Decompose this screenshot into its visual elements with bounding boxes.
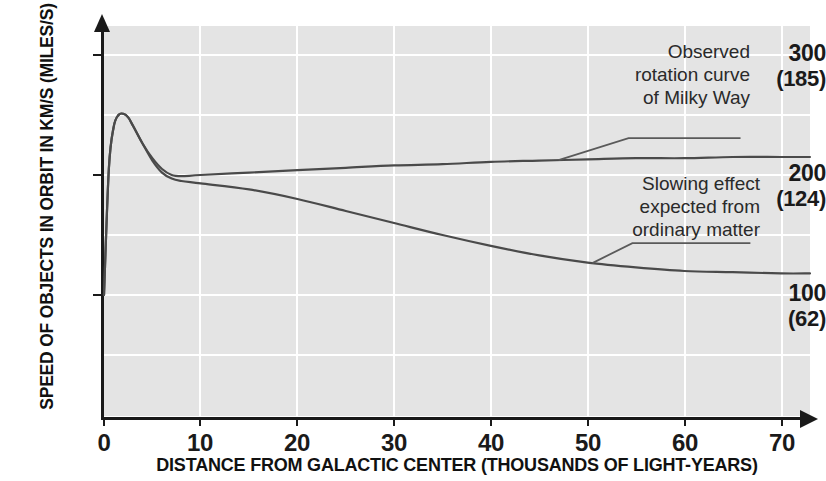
annotation-ordinary-matter: Slowing effect expected from ordinary ma… bbox=[430, 172, 760, 241]
y-tick-label-300-primary: 300 bbox=[789, 40, 826, 66]
x-tick-20 bbox=[296, 417, 298, 426]
x-tick-70 bbox=[781, 417, 783, 426]
x-tick-40 bbox=[490, 417, 492, 426]
annotation-observed-line-3: of Milky Way bbox=[430, 86, 750, 109]
x-tick-10 bbox=[199, 417, 201, 426]
gridline-y-100 bbox=[104, 294, 810, 296]
x-tick-0 bbox=[103, 417, 105, 426]
x-tick-label-30: 30 bbox=[364, 429, 424, 457]
annotation-observed-rotation-curve: Observed rotation curve of Milky Way bbox=[430, 40, 750, 109]
y-axis-arrow-icon bbox=[94, 14, 110, 32]
y-tick-100 bbox=[93, 294, 104, 296]
chart-figure: 300 (185) 200 (124) 100 (62) 0 10 20 30 … bbox=[0, 0, 826, 481]
y-tick-200 bbox=[93, 174, 104, 176]
x-tick-label-40: 40 bbox=[461, 429, 521, 457]
y-tick-label-100: 100 (62) bbox=[726, 281, 826, 331]
x-tick-60 bbox=[684, 417, 686, 426]
x-axis-title: DISTANCE FROM GALACTIC CENTER (THOUSANDS… bbox=[104, 455, 810, 476]
annotation-ordinary-line-3: ordinary matter bbox=[430, 218, 760, 241]
x-tick-label-60: 60 bbox=[655, 429, 715, 457]
y-axis-title: SPEED OF OBJECTS IN ORBIT IN KM/S (MILES… bbox=[37, 0, 58, 417]
x-tick-label-10: 10 bbox=[170, 429, 230, 457]
annotation-observed-line-2: rotation curve bbox=[430, 63, 750, 86]
x-tick-label-20: 20 bbox=[267, 429, 327, 457]
x-tick-label-50: 50 bbox=[558, 429, 618, 457]
gridline-x-20 bbox=[296, 26, 298, 416]
annotation-ordinary-line-1: Slowing effect bbox=[430, 172, 760, 195]
y-tick-300 bbox=[93, 54, 104, 56]
annotation-observed-line-1: Observed bbox=[430, 40, 750, 63]
y-axis-line bbox=[101, 30, 104, 420]
y-tick-label-100-secondary: (62) bbox=[726, 306, 826, 331]
x-axis-arrow-icon bbox=[800, 410, 818, 428]
x-tick-30 bbox=[393, 417, 395, 426]
gridline-y-50 bbox=[104, 354, 810, 356]
gridline-y-250 bbox=[104, 114, 810, 116]
gridline-x-10 bbox=[199, 26, 201, 416]
x-tick-label-70: 70 bbox=[752, 429, 812, 457]
x-tick-50 bbox=[587, 417, 589, 426]
y-tick-label-200-primary: 200 bbox=[789, 160, 826, 186]
x-axis-line bbox=[101, 417, 804, 420]
gridline-x-30 bbox=[393, 26, 395, 416]
x-tick-label-0: 0 bbox=[74, 429, 134, 457]
annotation-ordinary-line-2: expected from bbox=[430, 195, 760, 218]
y-tick-label-100-primary: 100 bbox=[789, 280, 826, 306]
